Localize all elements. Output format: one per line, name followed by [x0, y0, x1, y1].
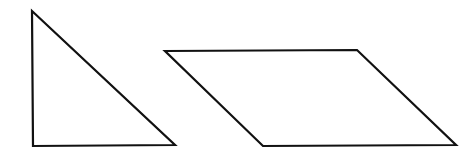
diagram-canvas	[0, 0, 476, 158]
parallelogram	[165, 50, 456, 146]
right-triangle	[32, 11, 175, 146]
